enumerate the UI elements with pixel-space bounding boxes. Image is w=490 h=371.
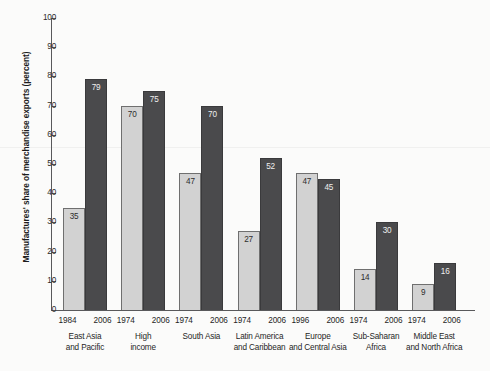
bar-value-label: 75 xyxy=(144,95,164,104)
bar-value-label: 47 xyxy=(180,177,200,186)
group-year-label: 2006 xyxy=(434,315,469,327)
bar-value-label: 79 xyxy=(86,83,106,92)
group-region-label: Middle Eastand North Africa xyxy=(399,331,469,354)
bar-dark-2006: 45 xyxy=(318,179,340,310)
group-region-label-line: Middle East xyxy=(399,331,469,343)
group-year-label: 1974 xyxy=(225,315,260,327)
bar-value-label: 9 xyxy=(413,288,433,297)
bar-light-1974: 70 xyxy=(121,106,143,310)
group-year-label: 1996 xyxy=(283,315,318,327)
group-year-label: 1974 xyxy=(108,315,143,327)
bar-dark-2006: 16 xyxy=(434,263,456,310)
bar-light-1984: 35 xyxy=(63,208,85,310)
x-axis-group-label: 19742006Middle Eastand North Africa xyxy=(399,315,469,354)
group-region-label-line: and North Africa xyxy=(399,342,469,354)
group-year-labels: 19742006 xyxy=(399,315,469,327)
bar-dark-2006: 75 xyxy=(143,91,165,310)
plot-area: 357970754770275247451430916 xyxy=(0,0,490,311)
bar-light-1974: 9 xyxy=(412,284,434,310)
bar-value-label: 30 xyxy=(377,226,397,235)
group-region-label-line: income xyxy=(108,342,178,354)
bar-value-label: 70 xyxy=(202,110,222,119)
bar-dark-2006: 79 xyxy=(85,79,107,310)
bar-value-label: 47 xyxy=(297,177,317,186)
bar-chart: Manufactures' share of merchandise expor… xyxy=(0,0,490,371)
bar-light-1974: 47 xyxy=(179,173,201,310)
bar-light-1996: 47 xyxy=(296,173,318,310)
bar-value-label: 16 xyxy=(435,267,455,276)
bar-dark-2006: 70 xyxy=(201,106,223,310)
group-year-label: 1974 xyxy=(166,315,201,327)
bar-value-label: 45 xyxy=(319,183,339,192)
bar-value-label: 14 xyxy=(355,273,375,282)
bar-dark-2006: 52 xyxy=(260,158,282,310)
group-year-label: 1974 xyxy=(341,315,376,327)
bar-value-label: 35 xyxy=(64,212,84,221)
bar-value-label: 52 xyxy=(261,162,281,171)
bar-light-1974: 14 xyxy=(354,269,376,310)
group-year-label: 1984 xyxy=(50,315,85,327)
bar-dark-2006: 30 xyxy=(376,222,398,310)
group-year-label: 1974 xyxy=(399,315,434,327)
bar-value-label: 70 xyxy=(122,110,142,119)
bar-value-label: 27 xyxy=(239,235,259,244)
bar-light-1974: 27 xyxy=(238,231,260,310)
